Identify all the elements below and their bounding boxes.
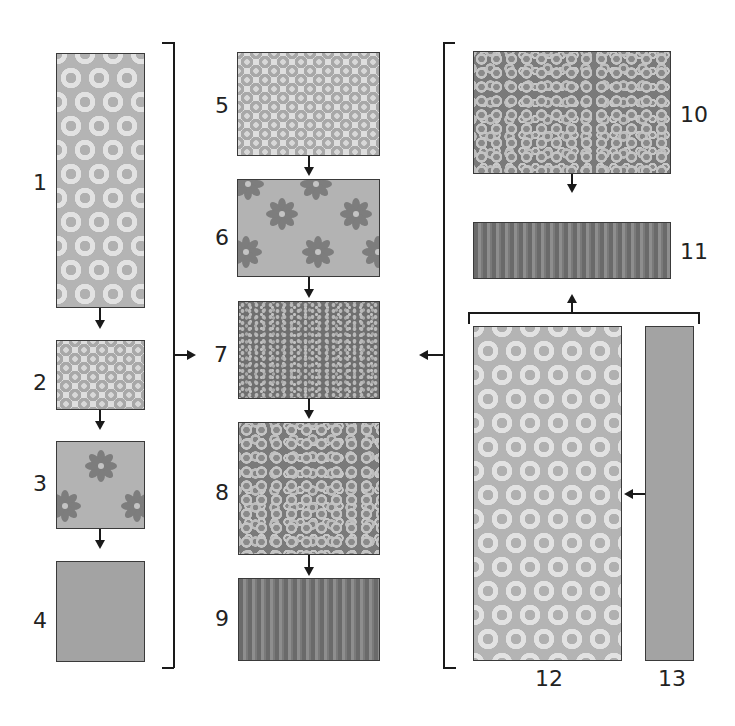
swatch-13-solid bbox=[645, 326, 694, 661]
arrow-left-icon bbox=[419, 350, 428, 360]
arrow-down-icon bbox=[304, 167, 314, 176]
left-group-arrow-shaft bbox=[174, 354, 188, 356]
arrow-down-icon bbox=[95, 421, 105, 430]
swatch-4-solid bbox=[56, 561, 145, 662]
swatch-label-2: 2 bbox=[33, 372, 47, 394]
swatch-1-large-rings bbox=[56, 53, 145, 308]
swatch-label-8: 8 bbox=[215, 482, 229, 504]
swatch-5-small-rings bbox=[237, 52, 380, 156]
swatch-label-13: 13 bbox=[658, 668, 686, 690]
arrow-down-icon bbox=[95, 320, 105, 329]
swatch-label-7: 7 bbox=[214, 344, 228, 366]
swatch-label-10: 10 bbox=[680, 104, 708, 126]
sub-bracket-right-tick bbox=[698, 312, 700, 324]
swatch-label-12: 12 bbox=[535, 668, 563, 690]
swatch-label-3: 3 bbox=[33, 473, 47, 495]
swatch-label-9: 9 bbox=[215, 608, 229, 630]
flower-motif-icon bbox=[238, 180, 380, 277]
sub-bracket-left-tick bbox=[468, 312, 470, 324]
right-bracket-top bbox=[443, 42, 455, 44]
right-group-arrow-shaft bbox=[428, 354, 443, 356]
swatch-label-11: 11 bbox=[680, 241, 708, 263]
arrow-down-icon bbox=[567, 184, 577, 193]
swatch-6-flowers bbox=[237, 179, 380, 277]
arrow-down-icon bbox=[304, 410, 314, 419]
swatch-8-cells bbox=[238, 422, 380, 555]
swatch-2-small-rings bbox=[56, 340, 145, 410]
swatch-label-5: 5 bbox=[215, 95, 229, 117]
swatch-3-flowers bbox=[56, 441, 145, 529]
right-bracket-bottom bbox=[443, 667, 456, 669]
flower-motif-icon bbox=[57, 442, 145, 529]
arrow-down-icon bbox=[304, 567, 314, 576]
swatch-9-stripes bbox=[238, 578, 380, 661]
swatch-label-6: 6 bbox=[215, 227, 229, 249]
swatch-label-4: 4 bbox=[33, 610, 47, 632]
swatch-11-stripes bbox=[473, 222, 671, 279]
swatch-12-large-rings bbox=[473, 326, 622, 661]
arrow-right-icon bbox=[187, 350, 196, 360]
swatch-label-1: 1 bbox=[33, 172, 47, 194]
arrow-down-icon bbox=[95, 540, 105, 549]
arrow-13-to-12-shaft bbox=[632, 493, 645, 495]
swatch-7-speckle bbox=[238, 301, 380, 399]
swatch-10-cells bbox=[473, 51, 671, 174]
arrow-down-icon bbox=[304, 289, 314, 298]
right-bracket-spine bbox=[443, 42, 445, 668]
arrow-left-icon bbox=[624, 489, 633, 499]
left-bracket-bottom bbox=[162, 667, 174, 669]
sub-bracket-horizontal bbox=[468, 312, 700, 314]
